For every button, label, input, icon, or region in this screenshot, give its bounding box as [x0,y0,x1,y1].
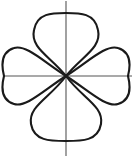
rose-curve-figure [0,0,135,157]
rose-curve-svg [0,0,135,157]
